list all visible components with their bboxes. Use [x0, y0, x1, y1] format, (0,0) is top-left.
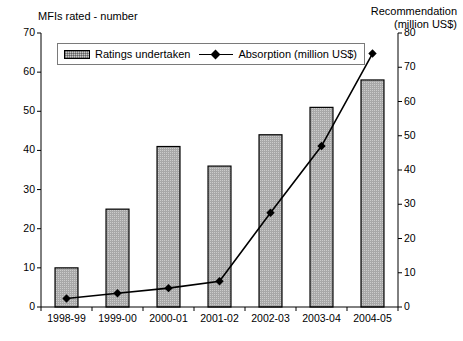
right-axis-title: Recommendation (million US$)	[337, 5, 457, 31]
right-tick-0: 0	[404, 301, 434, 312]
x-tick-label-5: 2003-04	[296, 312, 347, 332]
right-axis-title-line1: Recommendation	[371, 5, 457, 17]
legend-item-0: Ratings undertaken	[64, 48, 190, 60]
line-marker-2004-05	[368, 49, 376, 57]
right-tick-5: 50	[404, 130, 434, 141]
left-tick-2: 20	[9, 223, 35, 234]
x-tick-label-0: 1998-99	[41, 312, 92, 332]
x-tick-label-1: 1999-00	[92, 312, 143, 332]
left-tick-7: 70	[9, 27, 35, 38]
legend-label-1: Absorption (million US$)	[238, 48, 357, 60]
right-tick-2: 20	[404, 233, 434, 244]
plot-svg	[41, 33, 398, 307]
left-tick-4: 40	[9, 144, 35, 155]
right-tick-1: 10	[404, 267, 434, 278]
left-tick-0: 0	[9, 301, 35, 312]
right-tick-4: 40	[404, 164, 434, 175]
left-axis-title: MFIs rated - number	[38, 10, 138, 23]
chart-legend: Ratings undertakenAbsorption (million US…	[57, 43, 365, 65]
legend-item-1: Absorption (million US$)	[199, 48, 357, 60]
legend-line-diamond-icon	[199, 50, 233, 59]
bar-2002-03	[259, 135, 282, 307]
plot-area	[41, 33, 398, 307]
x-tick-label-4: 2002-03	[245, 312, 296, 332]
bar-2000-01	[157, 147, 180, 307]
x-tick-label-3: 2001-02	[194, 312, 245, 332]
right-tick-6: 60	[404, 96, 434, 107]
legend-bar-swatch-icon	[64, 50, 90, 59]
left-tick-1: 10	[9, 262, 35, 273]
bar-2004-05	[361, 80, 384, 307]
right-axis-title-line2: (million US$)	[337, 18, 457, 31]
chart-figure: MFIs rated - number Recommendation (mill…	[0, 0, 463, 341]
bar-series	[55, 80, 384, 307]
legend-label-0: Ratings undertaken	[95, 48, 190, 60]
right-axis-tick-labels: 01020304050607080	[404, 33, 444, 307]
left-tick-6: 60	[9, 66, 35, 77]
x-axis-category-labels: 1998-991999-002000-012001-022002-032003-…	[41, 312, 398, 332]
right-tick-8: 80	[404, 27, 434, 38]
left-tick-5: 50	[9, 105, 35, 116]
bar-2003-04	[310, 107, 333, 307]
left-axis-tick-labels: 010203040506070	[6, 33, 35, 307]
left-tick-3: 30	[9, 184, 35, 195]
right-tick-7: 70	[404, 61, 434, 72]
right-tick-3: 30	[404, 198, 434, 209]
x-tick-label-6: 2004-05	[347, 312, 398, 332]
x-tick-label-2: 2000-01	[143, 312, 194, 332]
bar-2001-02	[208, 166, 231, 307]
